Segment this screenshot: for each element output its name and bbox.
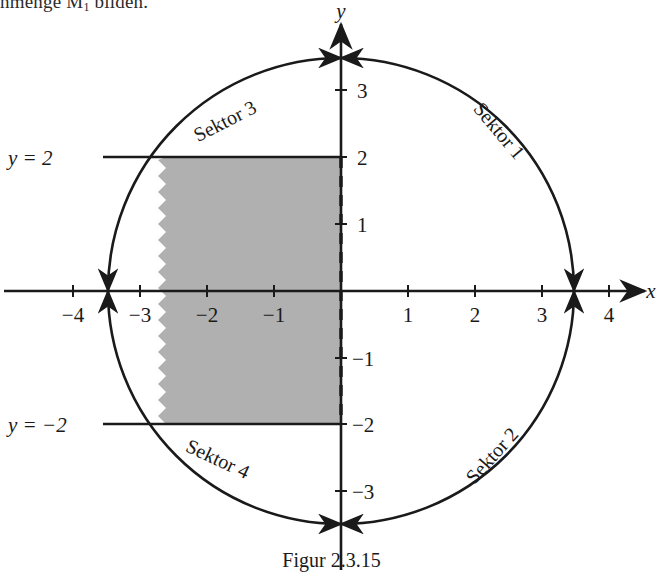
sector-label-4: Sektor 4: [183, 434, 253, 482]
x-tick-label-3: 3: [537, 303, 548, 327]
x-tick-label--1: −1: [263, 303, 285, 327]
sector-label-1: Sektor 1: [469, 98, 529, 164]
y-axis-label: y: [334, 0, 346, 23]
sector-label-2: Sektor 2: [461, 423, 522, 488]
x-tick-label--3: −3: [129, 303, 151, 327]
figure-caption: Figur 2.3.15: [0, 549, 663, 572]
x-tick-label-4: 4: [604, 303, 615, 327]
label-y-equals-2: y = 2: [6, 146, 53, 170]
y-tick-label--3: −3: [352, 480, 374, 504]
x-tick-label-1: 1: [403, 303, 414, 327]
y-tick-label--2: −2: [352, 413, 374, 437]
y-tick-label--1: −1: [352, 347, 374, 371]
x-tick-label--4: −4: [62, 303, 85, 327]
x-axis-label: x: [645, 279, 656, 303]
figure-root: nmenge M1 bilden.: [0, 0, 663, 580]
sector-label-3: Sektor 3: [190, 96, 260, 146]
y-tick-label-1: 1: [357, 213, 368, 237]
arc-sektor-1: [341, 58, 574, 291]
coordinate-plot: x y −4 −3 −2 −1 1 2 3 4 3 2 1 −1 −2 −3 y…: [0, 0, 663, 580]
y-tick-label-3: 3: [357, 79, 368, 103]
y-tick-label-2: 2: [357, 146, 368, 170]
x-tick-label--2: −2: [196, 303, 218, 327]
label-y-equals-minus-2: y = −2: [6, 413, 67, 437]
x-tick-label-2: 2: [470, 303, 481, 327]
